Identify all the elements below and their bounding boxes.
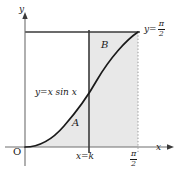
curve-equation-label: y=x sin x xyxy=(35,88,77,97)
region-a-label: A xyxy=(72,118,79,128)
x-axis-arrow-icon xyxy=(167,144,174,149)
x-tick-label-pi-over-two: π 2 xyxy=(130,150,137,168)
origin-label: O xyxy=(13,147,21,157)
pi-over-two-fraction: π 2 xyxy=(158,20,165,38)
vertical-line-label: x=k xyxy=(76,152,94,161)
x-axis-label: x xyxy=(156,143,161,152)
pi-numerator: π xyxy=(158,20,165,29)
region-b-label: B xyxy=(101,40,108,50)
two-denominator: 2 xyxy=(130,160,137,169)
pi-over-two-fraction-x-axis: π 2 xyxy=(130,150,137,168)
horizontal-line-label-prefix: y= xyxy=(144,25,157,34)
pi-numerator: π xyxy=(130,150,137,159)
y-axis-label: y xyxy=(19,5,24,14)
two-denominator: 2 xyxy=(158,30,165,39)
horizontal-line-label: y= π 2 xyxy=(144,20,165,38)
math-figure: y x O y=x sin x A B x=k y= π 2 π 2 xyxy=(0,0,184,173)
